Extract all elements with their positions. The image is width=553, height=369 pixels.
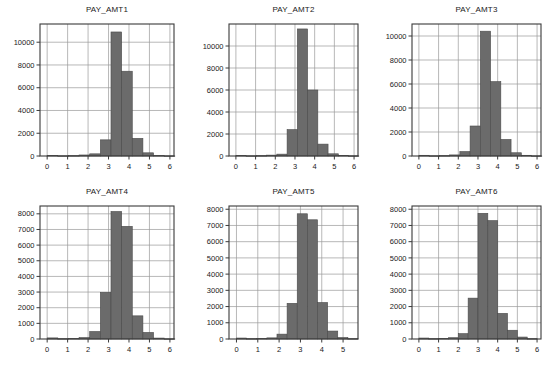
y-tick-label: 4000 [18, 272, 35, 281]
y-tick-label: 6000 [18, 83, 35, 92]
x-tick-label: 0 [417, 162, 421, 171]
y-tick-label: 2000 [207, 302, 224, 311]
histogram-bar [480, 31, 490, 156]
y-tick-label: 8000 [390, 205, 407, 214]
x-tick-label: 1 [66, 345, 70, 354]
x-tick-label: 1 [437, 345, 441, 354]
x-tick-label: 6 [535, 345, 539, 354]
x-tick-label: 3 [476, 162, 480, 171]
x-tick-label: 3 [298, 345, 302, 354]
histogram-bar [508, 330, 518, 339]
y-tick-label: 6000 [207, 237, 224, 246]
x-tick-label: 1 [437, 162, 441, 171]
x-tick-label: 4 [320, 345, 324, 354]
y-tick-label: 0 [402, 335, 406, 344]
histogram-bar [122, 226, 133, 339]
histogram-bar [111, 32, 122, 156]
y-tick-label: 6000 [207, 86, 224, 95]
y-tick-label: 0 [30, 335, 34, 344]
histogram-bar [100, 292, 111, 339]
chart-title: PAY_AMT1 [86, 5, 129, 14]
chart-title: PAY_AMT5 [272, 187, 315, 196]
x-tick-label: 5 [515, 345, 519, 354]
histogram-bar [478, 213, 488, 339]
x-tick-label: 6 [352, 162, 356, 171]
histogram-bar [468, 298, 478, 339]
y-tick-label: 4000 [390, 104, 407, 113]
y-tick-label: 7000 [207, 221, 224, 230]
chart-title: PAY_AMT2 [272, 5, 315, 14]
x-tick-label: 6 [535, 162, 539, 171]
y-tick-label: 8000 [18, 61, 35, 70]
histogram-bar [287, 130, 297, 156]
y-tick-label: 8000 [207, 64, 224, 73]
histogram-grid: PAY_AMT102000400060008000100000123456PAY… [0, 0, 553, 369]
x-tick-label: 2 [86, 162, 90, 171]
x-tick-label: 1 [256, 345, 260, 354]
y-tick-label: 5000 [18, 256, 35, 265]
histogram-bar [297, 214, 307, 339]
y-tick-label: 0 [30, 152, 34, 161]
histogram-panel-pay_amt6: PAY_AMT601000200030004000500060007000800… [370, 182, 553, 369]
histogram-svg: PAY_AMT102000400060008000100000123456 [0, 0, 187, 182]
histogram-panel-pay_amt2: PAY_AMT202000400060008000100000123456 [187, 0, 370, 182]
y-tick-label: 7000 [18, 225, 35, 234]
histogram-svg: PAY_AMT302000400060008000100000123456 [370, 0, 553, 182]
y-tick-label: 8000 [390, 56, 407, 65]
y-tick-label: 8000 [207, 205, 224, 214]
y-tick-label: 3000 [390, 286, 407, 295]
chart-title: PAY_AMT3 [455, 5, 498, 14]
histogram-bar [501, 139, 511, 156]
x-tick-label: 2 [456, 345, 460, 354]
x-tick-label: 4 [313, 162, 317, 171]
histogram-bar [287, 303, 297, 339]
histogram-svg: PAY_AMT401000200030004000500060007000800… [0, 182, 187, 369]
y-tick-label: 5000 [207, 254, 224, 263]
y-tick-label: 6000 [18, 241, 35, 250]
x-tick-label: 3 [476, 345, 480, 354]
y-tick-label: 0 [219, 152, 223, 161]
x-tick-label: 2 [456, 162, 460, 171]
y-tick-label: 8000 [18, 209, 35, 218]
histogram-bar [90, 331, 101, 339]
y-tick-label: 5000 [390, 254, 407, 263]
y-tick-label: 4000 [18, 106, 35, 115]
y-tick-label: 2000 [18, 303, 35, 312]
histogram-bar [498, 313, 508, 339]
x-tick-label: 5 [341, 345, 345, 354]
x-tick-label: 6 [168, 162, 172, 171]
x-tick-label: 4 [127, 345, 131, 354]
histogram-panel-pay_amt5: PAY_AMT501000200030004000500060007000800… [187, 182, 370, 369]
x-tick-label: 0 [45, 162, 49, 171]
histogram-bar [491, 82, 501, 156]
y-tick-label: 7000 [390, 221, 407, 230]
histogram-bar [317, 303, 327, 339]
x-tick-label: 3 [106, 345, 110, 354]
y-tick-label: 2000 [207, 130, 224, 139]
histogram-bar [143, 332, 154, 339]
x-tick-label: 4 [127, 162, 131, 171]
y-tick-label: 1000 [390, 318, 407, 327]
histogram-bar [297, 29, 307, 156]
x-tick-label: 3 [293, 162, 297, 171]
y-tick-label: 2000 [390, 128, 407, 137]
y-tick-label: 4000 [390, 270, 407, 279]
x-tick-label: 2 [86, 345, 90, 354]
y-tick-label: 10000 [386, 32, 407, 41]
y-tick-label: 2000 [390, 302, 407, 311]
histogram-bar [458, 334, 468, 339]
histogram-bar [132, 316, 143, 339]
x-tick-label: 6 [168, 345, 172, 354]
y-tick-label: 10000 [14, 38, 35, 47]
histogram-svg: PAY_AMT601000200030004000500060007000800… [370, 182, 553, 369]
x-tick-label: 2 [277, 345, 281, 354]
histogram-svg: PAY_AMT202000400060008000100000123456 [187, 0, 370, 182]
y-tick-label: 2000 [18, 129, 35, 138]
chart-title: PAY_AMT4 [86, 187, 129, 196]
histogram-bar [460, 152, 470, 156]
x-tick-label: 4 [496, 162, 500, 171]
histogram-bar [308, 90, 318, 156]
histogram-bar [488, 221, 498, 339]
x-tick-label: 0 [234, 345, 238, 354]
histogram-panel-pay_amt3: PAY_AMT302000400060008000100000123456 [370, 0, 553, 182]
